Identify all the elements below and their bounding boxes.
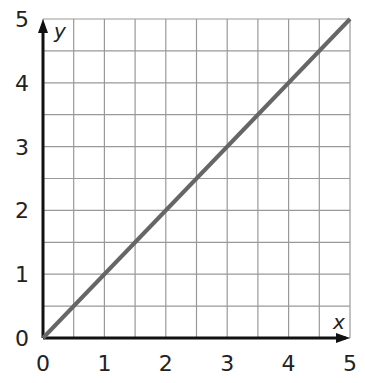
y-tick-label: 1: [15, 262, 29, 287]
y-axis-arrow-icon: [38, 19, 48, 33]
y-axis-label: y: [53, 19, 67, 43]
x-tick-label: 5: [343, 351, 357, 376]
x-tick-label: 1: [97, 351, 111, 376]
x-tick-label: 4: [282, 351, 296, 376]
x-axis-label: x: [332, 310, 345, 334]
y-tick-labels: 012345: [15, 7, 29, 351]
y-tick-label: 2: [15, 198, 29, 223]
y-tick-label: 3: [15, 135, 29, 160]
x-tick-label: 0: [36, 351, 50, 376]
y-tick-label: 0: [15, 326, 29, 351]
x-axis-arrow-icon: [336, 333, 350, 343]
x-tick-label: 2: [159, 351, 173, 376]
y-tick-label: 4: [15, 71, 29, 96]
chart: x y 012345 012345: [0, 0, 365, 383]
x-tick-label: 3: [220, 351, 234, 376]
y-tick-label: 5: [15, 7, 29, 32]
x-tick-labels: 012345: [36, 351, 357, 376]
